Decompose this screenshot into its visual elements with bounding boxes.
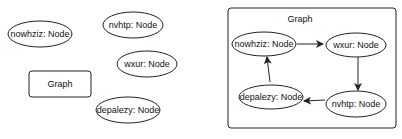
node-nvhtp[interactable]: nvhtp: Node	[326, 91, 386, 117]
node-nowhziz[interactable]: nowhziz: Node	[8, 21, 72, 47]
node-label: wxur: Node	[123, 59, 170, 69]
node-label: nowhziz: Node	[10, 29, 69, 39]
graph-box[interactable]: Graph	[29, 71, 91, 97]
graph-frame-label: Graph	[287, 14, 312, 24]
node-label: nowhziz: Node	[234, 39, 293, 49]
node-nvhtp[interactable]: nvhtp: Node	[103, 12, 163, 38]
node-depalezy[interactable]: depalezy: Node	[239, 85, 303, 109]
node-label: nvhtp: Node	[332, 99, 381, 109]
node-label: depalezy: Node	[97, 105, 160, 115]
node-nowhziz[interactable]: nowhziz: Node	[232, 32, 296, 56]
diagram-canvas: nowhziz: Node nvhtp: Node wxur: Node dep…	[0, 0, 402, 139]
graph-box-label: Graph	[47, 79, 72, 89]
left-panel: nowhziz: Node nvhtp: Node wxur: Node dep…	[8, 12, 177, 123]
node-label: wxur: Node	[332, 40, 379, 50]
node-label: depalezy: Node	[240, 92, 303, 102]
node-wxur[interactable]: wxur: Node	[326, 33, 386, 57]
node-label: nvhtp: Node	[109, 20, 158, 30]
right-panel: Graph nowhziz: Node wxur: Node nvhtp: No…	[228, 8, 396, 128]
node-depalezy[interactable]: depalezy: Node	[96, 97, 160, 123]
node-wxur[interactable]: wxur: Node	[117, 51, 177, 77]
